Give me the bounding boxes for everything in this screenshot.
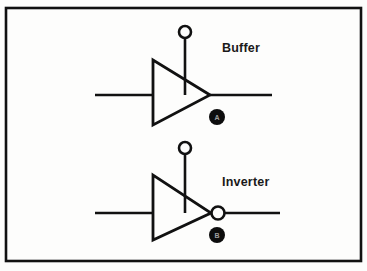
- logic-symbols-figure: Buffer Inverter A B: [0, 0, 367, 271]
- buffer-label: Buffer: [222, 42, 260, 55]
- buffer-badge-glyph: A: [209, 114, 225, 121]
- inverter-label: Inverter: [222, 176, 269, 189]
- inverter-gate: [95, 142, 280, 243]
- figure-canvas: [0, 0, 367, 271]
- inverter-terminal-circle: [179, 142, 191, 154]
- buffer-triangle: [153, 60, 210, 125]
- figure-border: [6, 8, 361, 261]
- inverter-bubble-icon: [212, 207, 225, 220]
- inverter-badge-glyph: B: [209, 232, 225, 239]
- buffer-terminal-circle: [179, 26, 191, 38]
- inverter-triangle: [153, 175, 211, 240]
